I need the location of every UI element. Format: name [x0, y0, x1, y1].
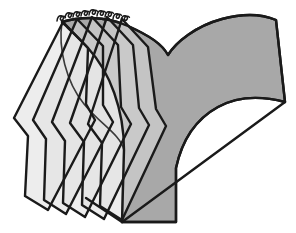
geometry-illustration [0, 0, 296, 233]
apex-curl-mark-2 [65, 13, 73, 18]
apex-curl-mark-6 [97, 11, 105, 16]
apex-curl-mark-3 [73, 12, 81, 17]
apex-curl-mark-4 [81, 11, 89, 16]
apex-curl-mark-8 [113, 14, 121, 19]
figure-canvas: Foliation of a pair-of-pants surface by … [0, 0, 296, 233]
apex-curl-mark-5 [89, 10, 97, 15]
